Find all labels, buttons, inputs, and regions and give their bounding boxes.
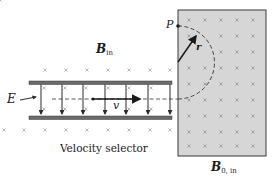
point-p-dot (176, 24, 180, 28)
b-in-label: Bin (96, 42, 113, 57)
b0-in-label: B0, in (211, 160, 237, 175)
e-field-pointer-arrow (20, 97, 36, 100)
b-in-field-crosses (3, 69, 172, 132)
top-plate (29, 81, 172, 85)
b0-field-crosses (0, 0, 2, 2)
e-field-label: E (7, 92, 16, 106)
velocity-selector-caption: Velocity selector (60, 142, 148, 154)
radius-label: r (196, 41, 201, 52)
bottom-plate (29, 116, 172, 120)
point-p-label: P (166, 18, 173, 31)
velocity-label: v (113, 99, 119, 112)
velocity-selector-diagram (0, 0, 273, 183)
